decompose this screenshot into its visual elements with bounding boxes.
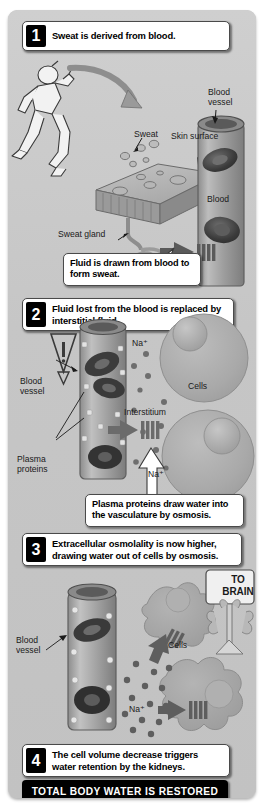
running-person-icon <box>12 61 74 176</box>
label-sodium-3: Na⁺ <box>129 704 145 714</box>
label-plasma-proteins: Plasma proteins <box>17 454 48 474</box>
label-blood-vessel-3: Blood vessel <box>16 635 40 655</box>
label-skin-surface: Skin surface <box>171 131 218 141</box>
curved-arrow-icon <box>70 68 142 108</box>
label-cells-2: Cells <box>188 381 207 391</box>
step-4-header: 4 The cell volume decrease triggers wate… <box>22 744 230 777</box>
cell-group-2 <box>160 314 254 502</box>
label-blood-vessel-2: Blood vessel <box>20 376 44 396</box>
sweat-gland <box>128 218 141 250</box>
label-sodium-bottom: Na⁺ <box>148 469 164 479</box>
step-4-number: 4 <box>26 748 46 773</box>
label-to-brain: TO BRAIN <box>218 574 256 598</box>
crenated-cell-upper <box>142 583 216 648</box>
label-cells-3: Cells <box>168 640 187 650</box>
step-3-text: Extracellular osmolality is now higher, … <box>49 534 241 565</box>
step-3-number: 3 <box>26 537 46 562</box>
callout-osmosis: Plasma proteins draw water into the vasc… <box>85 494 244 527</box>
blood-vessel-3 <box>68 584 116 730</box>
panel-2-artwork <box>8 332 256 502</box>
label-interstitium: Interstitium <box>124 407 166 417</box>
step-2-number: 2 <box>26 302 46 327</box>
label-blood: Blood <box>207 194 229 204</box>
diagram-panel: 1 Sweat is derived from blood. <box>8 10 256 798</box>
crenated-cell-lower <box>160 657 243 730</box>
result-banner: TOTAL BODY WATER IS RESTORED <box>22 780 228 798</box>
label-sweat-gland: Sweat gland <box>58 229 105 239</box>
step-3-header: 3 Extracellular osmolality is now higher… <box>22 533 242 566</box>
label-blood-vessel-1: Blood vessel <box>208 87 232 107</box>
label-sodium-top: Na⁺ <box>132 338 148 348</box>
step-1-header: 1 Sweat is derived from blood. <box>22 21 230 51</box>
blood-vessel-2 <box>80 320 127 480</box>
warning-triangle-icon <box>51 334 76 384</box>
step-4-text: The cell volume decrease triggers water … <box>49 745 229 776</box>
callout-sweat: Fluid is drawn from blood to form sweat. <box>63 253 201 286</box>
step-1-text: Sweat is derived from blood. <box>49 22 181 50</box>
panel-1-artwork <box>8 52 256 274</box>
infographic-figure: 1 Sweat is derived from blood. <box>0 0 264 808</box>
label-sweat: Sweat <box>134 129 158 139</box>
step-1-number: 1 <box>26 25 46 47</box>
evaporating-droplets <box>120 140 158 166</box>
